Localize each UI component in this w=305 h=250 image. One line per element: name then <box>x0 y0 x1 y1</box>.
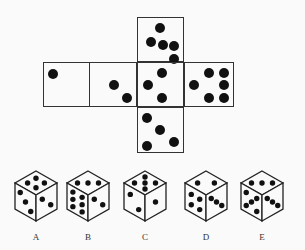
pip <box>48 69 58 79</box>
pip <box>79 195 84 200</box>
pip <box>219 93 229 103</box>
pip <box>155 125 165 135</box>
option-label-e: E <box>259 232 265 242</box>
pip <box>212 180 217 185</box>
pip <box>85 180 90 185</box>
pip <box>153 199 158 204</box>
net-face-bottom <box>137 107 184 153</box>
pip <box>259 180 264 185</box>
pip <box>204 93 214 103</box>
pip <box>25 180 30 185</box>
net-face-center <box>137 62 184 107</box>
pip <box>70 189 75 194</box>
pip <box>219 203 224 208</box>
pip <box>244 203 249 208</box>
pip <box>142 180 147 185</box>
option-cube-b[interactable] <box>58 168 118 228</box>
pip <box>132 180 137 185</box>
pip <box>195 180 200 185</box>
pip <box>275 203 280 208</box>
pip <box>33 185 38 190</box>
pip <box>270 199 275 204</box>
pip <box>42 180 47 185</box>
pip <box>189 202 194 207</box>
pip <box>158 40 168 50</box>
pip <box>142 174 147 179</box>
pip <box>189 80 199 90</box>
pip <box>75 180 80 185</box>
pip <box>146 37 156 47</box>
option-cube-d[interactable] <box>176 168 236 228</box>
pip <box>33 176 38 181</box>
option-label-a: A <box>33 232 40 242</box>
pip <box>214 199 219 204</box>
option-cube-c[interactable] <box>115 168 175 228</box>
pip <box>244 190 249 195</box>
pip <box>142 186 147 191</box>
pip <box>197 207 202 212</box>
pip <box>70 204 75 209</box>
pip <box>128 192 133 197</box>
pip <box>219 68 229 78</box>
pip <box>155 23 165 33</box>
option-cube-a[interactable] <box>6 168 66 228</box>
pip <box>157 93 167 103</box>
pip <box>136 207 141 212</box>
option-label-c: C <box>142 232 148 242</box>
pip <box>189 192 194 197</box>
pip <box>270 180 275 185</box>
pip <box>254 209 259 214</box>
pip <box>122 93 132 103</box>
pip <box>18 190 23 195</box>
net-face-left-far <box>43 62 90 107</box>
net-face-left <box>89 62 137 107</box>
option-label-b: B <box>85 232 91 242</box>
option-label-d: D <box>203 232 210 242</box>
pip <box>169 137 179 147</box>
pip <box>142 141 152 151</box>
pip <box>157 68 167 78</box>
pip <box>142 113 152 123</box>
pip <box>109 80 119 90</box>
pip <box>70 197 75 202</box>
pip <box>153 180 158 185</box>
pip <box>219 80 229 90</box>
pip <box>40 197 45 202</box>
net-face-top <box>137 17 184 62</box>
pip <box>48 202 53 207</box>
pip <box>79 209 84 214</box>
pip <box>79 202 84 207</box>
pip <box>249 199 254 204</box>
pip <box>92 197 97 202</box>
pip <box>143 80 153 90</box>
pip <box>96 180 101 185</box>
net-face-right <box>184 62 234 107</box>
pip <box>249 180 254 185</box>
pip <box>100 202 105 207</box>
pip <box>169 41 179 51</box>
pip <box>204 68 214 78</box>
pip <box>254 196 259 201</box>
pip <box>197 197 202 202</box>
pip <box>209 196 214 201</box>
pip <box>23 199 28 204</box>
pip <box>265 196 270 201</box>
pip <box>28 209 33 214</box>
option-cube-e[interactable] <box>232 168 292 228</box>
